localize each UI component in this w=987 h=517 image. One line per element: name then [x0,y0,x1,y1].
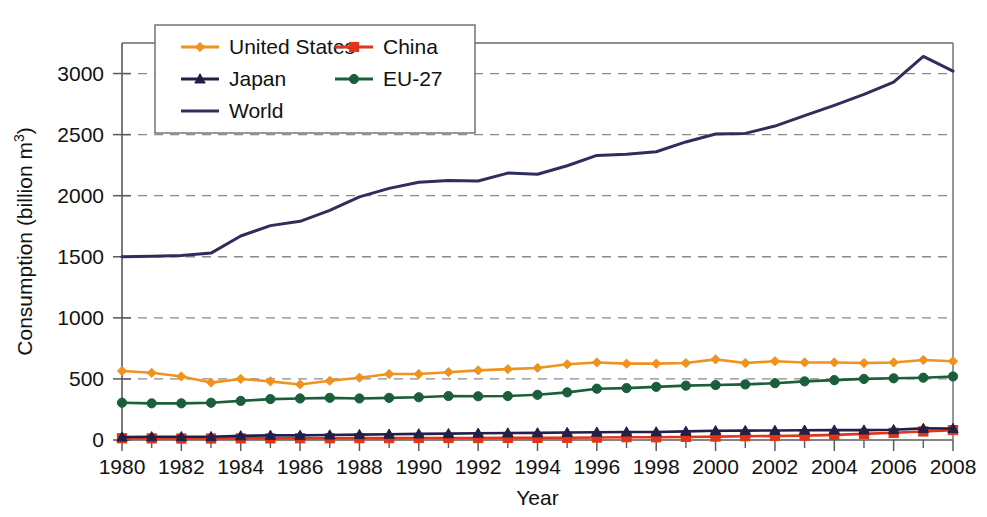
chart-legend[interactable]: United StatesChinaJapanEU-27World [155,25,475,133]
y-axis-title-superscript: 3 [11,134,27,142]
x-tick-label-1994: 1994 [514,455,561,478]
series-point-eu-27 [889,374,898,383]
series-point-eu-27 [948,372,957,381]
x-tick-label-2008: 2008 [930,455,977,478]
series-point-eu-27 [830,376,839,385]
x-tick-label-1982: 1982 [158,455,205,478]
chart-canvas: 050010001500200025003000 198019821984198… [0,0,987,517]
x-tick-label-1986: 1986 [277,455,324,478]
series-point-united-states [711,355,720,364]
series-point-eu-27 [236,396,245,405]
series-point-eu-27 [859,374,868,383]
x-tick-label-1988: 1988 [336,455,383,478]
series-point-united-states [859,358,868,367]
legend-label-world: World [229,99,283,122]
legend-label-china: China [383,35,438,58]
series-point-united-states [325,376,334,385]
y-axis-title-tail: ) [13,127,36,134]
x-axis-tick-labels: 1980198219841986198819901992199419961998… [99,455,977,478]
series-point-eu-27 [592,384,601,393]
series-point-united-states [948,357,957,366]
natural-gas-consumption-chart: 050010001500200025003000 198019821984198… [0,0,987,517]
series-point-eu-27 [355,394,364,403]
series-point-eu-27 [206,398,215,407]
series-point-united-states [503,365,512,374]
series-point-united-states [741,358,750,367]
series-point-eu-27 [800,377,809,386]
legend-label-japan: Japan [229,67,286,90]
series-point-eu-27 [503,391,512,400]
series-point-united-states [414,369,423,378]
legend-marker-eu-27 [349,74,358,83]
y-tick-label-500: 500 [69,367,104,390]
series-point-eu-27 [622,383,631,392]
series-point-united-states [266,377,275,386]
series-point-united-states [830,358,839,367]
series-point-united-states [444,368,453,377]
y-axis-tick-labels: 050010001500200025003000 [57,62,104,451]
legend-label-eu-27: EU-27 [383,67,443,90]
y-tick-label-3000: 3000 [57,62,104,85]
series-point-eu-27 [652,382,661,391]
series-point-united-states [533,363,542,372]
series-point-united-states [889,358,898,367]
series-point-eu-27 [177,399,186,408]
series-point-eu-27 [385,393,394,402]
series-point-eu-27 [533,390,542,399]
series-point-united-states [355,373,364,382]
y-axis-title-main: Consumption (billion m [13,142,36,356]
x-tick-label-1998: 1998 [633,455,680,478]
series-point-eu-27 [563,388,572,397]
x-tick-label-1984: 1984 [217,455,264,478]
series-point-united-states [919,355,928,364]
series-point-united-states [681,358,690,367]
x-axis-title: Year [516,486,558,509]
x-tick-label-1990: 1990 [395,455,442,478]
series-point-eu-27 [295,394,304,403]
series-point-united-states [236,374,245,383]
series-point-eu-27 [147,399,156,408]
series-point-eu-27 [770,379,779,388]
series-point-united-states [622,359,631,368]
x-tick-label-1992: 1992 [455,455,502,478]
series-point-united-states [652,359,661,368]
y-tick-label-0: 0 [92,428,104,451]
y-tick-label-2500: 2500 [57,123,104,146]
series-point-united-states [385,369,394,378]
series-point-eu-27 [919,373,928,382]
series-point-eu-27 [117,398,126,407]
y-tick-label-1500: 1500 [57,245,104,268]
legend-marker-china [349,42,358,51]
series-point-united-states [592,358,601,367]
x-tick-label-2000: 2000 [692,455,739,478]
x-tick-label-2002: 2002 [752,455,799,478]
series-point-united-states [295,380,304,389]
series-point-eu-27 [325,393,334,402]
x-tick-label-2004: 2004 [811,455,858,478]
x-tick-label-2006: 2006 [870,455,917,478]
series-point-eu-27 [444,391,453,400]
series-point-united-states [147,368,156,377]
series-point-eu-27 [474,392,483,401]
series-point-eu-27 [266,394,275,403]
series-point-united-states [800,358,809,367]
series-point-united-states [770,357,779,366]
series-point-united-states [563,360,572,369]
y-tick-label-2000: 2000 [57,184,104,207]
y-axis-title: Consumption (billion m3) [11,127,36,355]
x-tick-label-1996: 1996 [573,455,620,478]
series-point-eu-27 [711,380,720,389]
series-point-eu-27 [681,381,690,390]
x-tick-label-1980: 1980 [99,455,146,478]
series-point-eu-27 [414,393,423,402]
series-point-eu-27 [741,380,750,389]
series-point-united-states [177,372,186,381]
y-tick-label-1000: 1000 [57,306,104,329]
series-point-united-states [474,366,483,375]
series-point-united-states [117,366,126,375]
